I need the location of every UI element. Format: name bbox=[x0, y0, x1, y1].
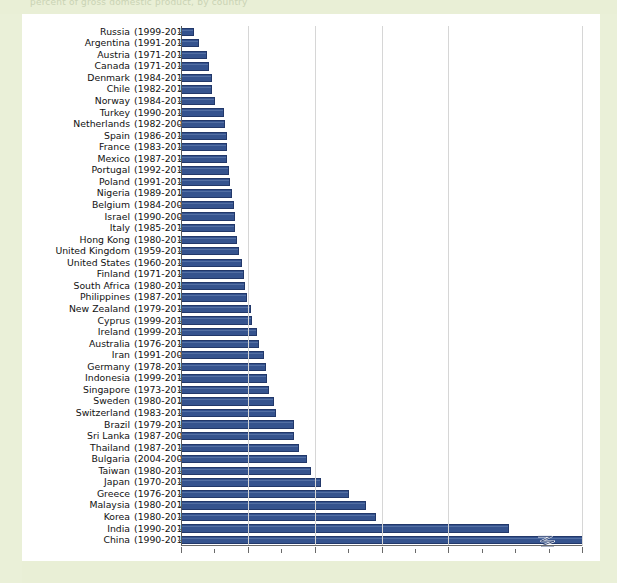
category-year-range: (2004-2007) bbox=[134, 454, 178, 463]
category-year-range: (1987-2008) bbox=[134, 431, 178, 440]
category-label: Korea bbox=[22, 512, 130, 521]
category-year-range: (1990-2013) bbox=[134, 535, 178, 544]
category-label: South Africa bbox=[22, 281, 130, 290]
category-label: Finland bbox=[22, 269, 130, 278]
category-year-range: (1973-2013) bbox=[134, 385, 178, 394]
category-year-range: (1976-2013) bbox=[134, 489, 178, 498]
top-partial-text-strip: percent of gross domestic product, by co… bbox=[0, 0, 617, 14]
category-label: Norway bbox=[22, 96, 130, 105]
category-year-range: (1971-2013) bbox=[134, 61, 178, 70]
category-year-range: (1980-2011) bbox=[134, 396, 178, 405]
category-label: Spain bbox=[22, 131, 130, 140]
x-minor-tick bbox=[515, 549, 516, 553]
category-year-range: (1980-2013) bbox=[134, 500, 178, 509]
category-year-range: (1983-2010) bbox=[134, 142, 178, 151]
category-label: Mexico bbox=[22, 154, 130, 163]
category-label: India bbox=[22, 524, 130, 533]
category-year-range: (1987-2012) bbox=[134, 443, 178, 452]
x-tick-80% bbox=[448, 547, 449, 553]
category-label: Nigeria bbox=[22, 188, 130, 197]
top-partial-text: percent of gross domestic product, by co… bbox=[30, 0, 248, 7]
category-year-range: (1990-2011) bbox=[134, 524, 178, 533]
category-year-range: (1999-2013) bbox=[134, 327, 178, 336]
category-year-range: (1983-2013) bbox=[134, 408, 178, 417]
category-year-range: (1990-2006) bbox=[134, 212, 178, 221]
category-label: Indonesia bbox=[22, 373, 130, 382]
gridline-120% bbox=[582, 26, 583, 546]
category-label: United Kingdom bbox=[22, 246, 130, 255]
category-year-range: (1989-2013) bbox=[134, 188, 178, 197]
y-axis-line bbox=[181, 26, 182, 546]
category-label: Ireland bbox=[22, 327, 130, 336]
category-year-range: (1979-2013) bbox=[134, 304, 178, 313]
category-year-range: (1985-2013) bbox=[134, 223, 178, 232]
x-tick-60% bbox=[382, 547, 383, 553]
category-label: Hong Kong bbox=[22, 235, 130, 244]
category-year-range: (1971-2013) bbox=[134, 269, 178, 278]
category-label: Austria bbox=[22, 50, 130, 59]
category-label: Switzerland bbox=[22, 408, 130, 417]
category-label: Denmark bbox=[22, 73, 130, 82]
category-year-range: (1984-2006) bbox=[134, 200, 178, 209]
category-year-range: (1970-2013) bbox=[134, 477, 178, 486]
category-label: Greece bbox=[22, 489, 130, 498]
category-year-range: (1987-2012) bbox=[134, 154, 178, 163]
category-year-range: (1986-2013) bbox=[134, 131, 178, 140]
category-year-range: (1992-2013) bbox=[134, 165, 178, 174]
chart-card: Russia(1999-2013)Argentina(1991-2013)Aus… bbox=[22, 14, 600, 561]
category-year-range: (1978-2011) bbox=[134, 362, 178, 371]
category-label: Italy bbox=[22, 223, 130, 232]
x-minor-tick bbox=[549, 549, 550, 553]
gridline-80% bbox=[448, 26, 449, 546]
category-label: Sri Lanka bbox=[22, 431, 130, 440]
category-label: Cyprus bbox=[22, 316, 130, 325]
category-year-range: (1987-2013) bbox=[134, 292, 178, 301]
category-label: Thailand bbox=[22, 443, 130, 452]
category-label: Singapore bbox=[22, 385, 130, 394]
category-year-range: (1982-2013) bbox=[134, 84, 178, 93]
category-year-range: (1979-2011) bbox=[134, 420, 178, 429]
category-year-range: (1991-2004) bbox=[134, 350, 178, 359]
x-tick-20% bbox=[248, 547, 249, 553]
category-label: Argentina bbox=[22, 38, 130, 47]
category-year-range: (1980-2013) bbox=[134, 235, 178, 244]
category-label: Chile bbox=[22, 84, 130, 93]
x-minor-tick bbox=[348, 549, 349, 553]
category-label: Japan bbox=[22, 477, 130, 486]
bottom-strip bbox=[22, 561, 600, 583]
gridline-40% bbox=[315, 26, 316, 546]
category-label: Taiwan bbox=[22, 466, 130, 475]
category-year-range: (1982-2006) bbox=[134, 119, 178, 128]
category-year-range: (1999-2014) bbox=[134, 373, 178, 382]
category-label: Israel bbox=[22, 212, 130, 221]
x-tick-120% bbox=[582, 547, 583, 553]
category-year-range: (1976-2011) bbox=[134, 339, 178, 348]
category-label: Poland bbox=[22, 177, 130, 186]
category-year-range: (1990-2013) bbox=[134, 108, 178, 117]
category-year-range: (1959-2012) bbox=[134, 246, 178, 255]
x-minor-tick bbox=[482, 549, 483, 553]
gridline-20% bbox=[248, 26, 249, 546]
category-year-range: (1991-2013) bbox=[134, 38, 178, 47]
category-label: Bulgaria bbox=[22, 454, 130, 463]
category-year-range: (1960-2015) bbox=[134, 258, 178, 267]
x-minor-tick bbox=[214, 549, 215, 553]
category-label: Australia bbox=[22, 339, 130, 348]
category-year-range: (1991-2014) bbox=[134, 177, 178, 186]
plot-area: 0%20%40%60%80%120% bbox=[181, 26, 582, 546]
category-year-range: (1999-2012) bbox=[134, 316, 178, 325]
category-label: China bbox=[22, 535, 130, 544]
gridline-60% bbox=[382, 26, 383, 546]
category-label: Turkey bbox=[22, 108, 130, 117]
category-label: Portugal bbox=[22, 165, 130, 174]
category-year-range: (1980-2013) bbox=[134, 281, 178, 290]
category-label: Brazil bbox=[22, 420, 130, 429]
category-label: Russia bbox=[22, 27, 130, 36]
x-axis-line bbox=[181, 545, 582, 546]
x-minor-tick bbox=[415, 549, 416, 553]
category-label: Malaysia bbox=[22, 500, 130, 509]
category-year-range: (1999-2013) bbox=[134, 27, 178, 36]
category-year-range: (1980-2014) bbox=[134, 512, 178, 521]
category-label: Canada bbox=[22, 61, 130, 70]
page-root: percent of gross domestic product, by co… bbox=[0, 0, 617, 583]
